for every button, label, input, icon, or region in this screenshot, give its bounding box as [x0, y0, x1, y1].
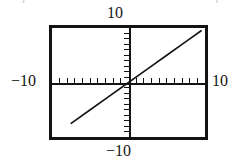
series-line-y-equals-x — [52, 28, 205, 137]
axis-label-top: 10 — [107, 5, 123, 21]
figure-container: ( ) 10 −10 10 −10 — [0, 0, 244, 167]
plot-area — [52, 28, 205, 137]
cropped-text-fragment-right: ) — [214, 0, 218, 3]
cropped-text-fragment-left: ( — [22, 0, 26, 3]
axis-label-bottom: −10 — [106, 143, 131, 159]
axis-label-left: −10 — [11, 73, 36, 89]
plot-frame — [49, 25, 208, 140]
axis-label-right: 10 — [212, 73, 228, 89]
